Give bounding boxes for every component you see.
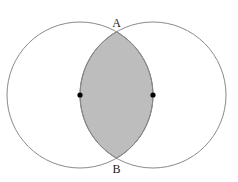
label-b: B — [112, 162, 120, 176]
right-center-dot — [150, 92, 155, 97]
shaded-intersection-region — [80, 32, 153, 158]
label-a: A — [112, 16, 121, 30]
left-center-dot — [77, 92, 82, 97]
diagram-canvas: A B — [0, 0, 238, 182]
